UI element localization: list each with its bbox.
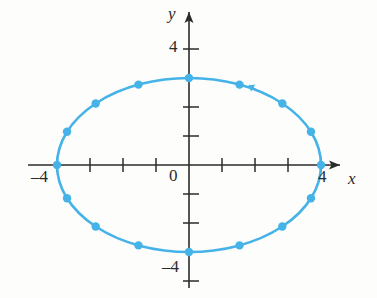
data-point-marker (134, 241, 142, 249)
data-point-marker (307, 128, 315, 136)
data-point-marker (63, 194, 71, 202)
data-point-marker (235, 241, 243, 249)
data-point-marker (278, 222, 286, 230)
x-tick-label-pos4: 4 (318, 168, 327, 185)
data-point-marker (53, 161, 61, 169)
data-point-marker (307, 194, 315, 202)
direction-arrow (249, 84, 259, 91)
y-axis-label: y (168, 5, 176, 22)
data-point-marker (91, 99, 99, 107)
data-point-marker (185, 74, 193, 82)
y-tick-label-neg4: –4 (162, 258, 179, 275)
data-point-marker (235, 80, 243, 88)
data-point-marker (134, 80, 142, 88)
ellipse-graph-figure: x y 0 –4 4 4 –4 (0, 0, 377, 298)
data-point-marker (185, 248, 193, 256)
y-tick-label-pos4: 4 (169, 38, 178, 55)
data-point-marker (278, 99, 286, 107)
origin-tick-label: 0 (169, 167, 178, 184)
data-point-marker (91, 222, 99, 230)
axes-group (28, 12, 340, 288)
x-tick-label-neg4: –4 (31, 168, 48, 185)
x-axis-label: x (348, 170, 356, 187)
direction-arrow-layer (249, 84, 259, 91)
data-point-marker (63, 128, 71, 136)
plot-canvas (0, 0, 377, 298)
